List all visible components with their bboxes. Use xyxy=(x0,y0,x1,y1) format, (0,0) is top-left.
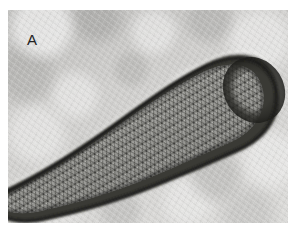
specimen-vector-layer xyxy=(8,10,288,223)
panel-label-a: A xyxy=(27,32,37,47)
figure-root: A xyxy=(0,0,300,235)
electron-micrograph-image: A xyxy=(8,10,288,223)
